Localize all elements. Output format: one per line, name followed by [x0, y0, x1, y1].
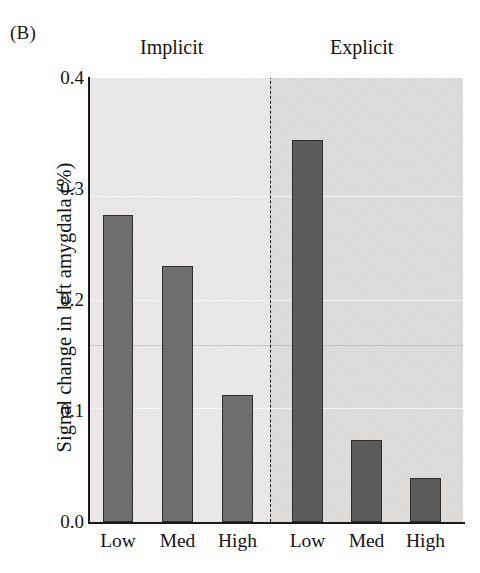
condition-header-implicit: Implicit: [140, 36, 203, 59]
bar-explicit-low: [292, 140, 323, 522]
bar-implicit-med: [162, 266, 193, 522]
plot-area: [89, 78, 463, 522]
x-tick-label: High: [391, 530, 461, 552]
y-axis-tick-labels: 0.40.30.20.10.0: [24, 0, 84, 573]
y-tick-label: 0.2: [28, 290, 84, 309]
x-tick-label: High: [203, 530, 273, 552]
y-tick-label: 0.4: [28, 68, 84, 87]
y-tick-label: 0.0: [28, 512, 84, 531]
x-axis-line: [88, 522, 465, 524]
condition-header-explicit: Explicit: [330, 36, 393, 59]
condition-divider-dashed-line: [270, 78, 271, 522]
y-axis-line: [88, 77, 90, 523]
bar-implicit-high: [222, 395, 253, 522]
bar-explicit-med: [351, 440, 382, 522]
y-tick-label: 0.1: [28, 401, 84, 420]
bar-implicit-low: [103, 215, 133, 522]
y-tick-label: 0.3: [28, 179, 84, 198]
bar-explicit-high: [410, 478, 441, 522]
